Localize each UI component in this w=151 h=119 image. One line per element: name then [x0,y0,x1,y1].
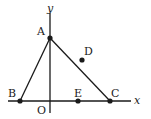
label-C: C [111,87,119,100]
point-A [47,35,52,40]
label-A: A [36,25,46,38]
segment-AB [20,38,50,101]
point-B [17,98,22,103]
origin-label: O [37,104,46,117]
x-axis-label: x [134,94,141,107]
label-E: E [74,87,82,100]
geometry-diagram: y x O A B C D E [0,0,151,119]
y-axis-label: y [46,2,54,15]
label-D: D [84,45,93,58]
label-B: B [8,87,16,100]
point-D [79,57,84,62]
